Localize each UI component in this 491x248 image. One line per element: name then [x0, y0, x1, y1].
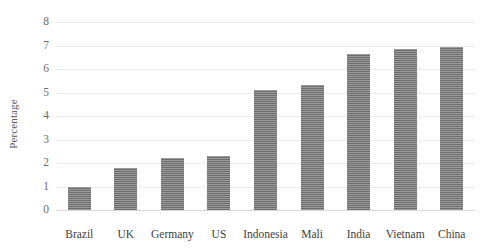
y-axis-tick-label: 0 — [43, 204, 49, 216]
x-axis-tick-label: UK — [118, 228, 135, 240]
bar-group — [289, 85, 336, 210]
bar — [68, 187, 91, 211]
x-axis-tick-label: Brazil — [65, 228, 93, 240]
plot-area: 012345678 BrazilUKGermanyUSIndonesiaMali… — [56, 14, 475, 218]
bar — [254, 90, 277, 210]
bar-group — [103, 168, 150, 210]
x-axis-tick-label: Vietnam — [386, 228, 425, 240]
y-axis-tick-label: 5 — [43, 87, 49, 99]
x-axis-tick-label: Germany — [151, 228, 194, 240]
bar — [301, 85, 324, 210]
x-axis-tick-label: India — [347, 228, 371, 240]
x-axis-tick-label: US — [212, 228, 227, 240]
bar-group — [196, 156, 243, 210]
bar-group — [149, 158, 196, 210]
bar-group — [335, 54, 382, 210]
y-axis-tick-label: 6 — [43, 63, 49, 75]
x-axis-tick-label: Indonesia — [243, 228, 288, 240]
y-axis-tick-label: 8 — [43, 16, 49, 28]
bar-group — [242, 90, 289, 210]
x-axis-tick-label: Mali — [301, 228, 323, 240]
bar-group — [382, 49, 429, 210]
bar-chart: Percentage 012345678 BrazilUKGermanyUSIn… — [0, 0, 491, 248]
bar — [440, 47, 463, 210]
bar — [394, 49, 417, 210]
bar-group — [56, 187, 103, 211]
bar — [114, 168, 137, 210]
bar — [347, 54, 370, 210]
y-axis-tick-label: 3 — [43, 134, 49, 146]
bars — [56, 14, 475, 218]
y-axis-tick-label: 4 — [43, 110, 49, 122]
bar — [161, 158, 184, 210]
y-axis-title: Percentage — [0, 0, 26, 248]
y-axis-tick-label: 2 — [43, 157, 49, 169]
bar — [207, 156, 230, 210]
x-axis-tick-label: China — [438, 228, 465, 240]
bar-group — [428, 47, 475, 210]
y-axis-tick-label: 7 — [43, 40, 49, 52]
y-axis-tick-label: 1 — [43, 181, 49, 193]
